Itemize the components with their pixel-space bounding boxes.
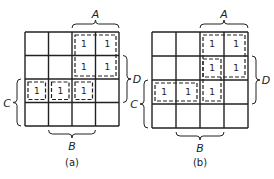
- cell-value: 1: [209, 39, 215, 49]
- brace: [123, 56, 131, 103]
- cell-value: 1: [161, 87, 167, 97]
- cell-value: 1: [81, 39, 87, 49]
- cell-value: 1: [209, 63, 215, 73]
- cell-value: 1: [81, 62, 87, 72]
- cell-value: 1: [104, 39, 110, 49]
- map-caption: (b): [193, 157, 207, 168]
- brace: [49, 130, 96, 138]
- karnaugh-map-a: 1111111ADCB(a): [3, 8, 141, 168]
- cell-value: 1: [104, 62, 110, 72]
- brace: [13, 79, 21, 126]
- cell-value: 1: [233, 63, 239, 73]
- cell-value: 1: [185, 87, 191, 97]
- brace: [140, 80, 148, 128]
- label-b: B: [196, 142, 204, 155]
- label-a: A: [91, 8, 100, 21]
- map-caption: (a): [65, 157, 79, 168]
- karnaugh-map-b: 1111111ADCB(b): [130, 8, 270, 168]
- label-d: D: [262, 74, 270, 87]
- label-c: C: [130, 98, 138, 111]
- brace: [200, 20, 248, 28]
- label-d: D: [133, 73, 141, 86]
- cell-value: 1: [34, 86, 40, 96]
- brace: [252, 56, 260, 104]
- brace: [72, 20, 119, 28]
- karnaugh-maps-figure: 1111111ADCB(a)1111111ADCB(b): [0, 0, 274, 179]
- cell-value: 1: [209, 87, 215, 97]
- cell-value: 1: [57, 86, 63, 96]
- label-b: B: [68, 140, 76, 153]
- cell-value: 1: [81, 86, 87, 96]
- cell-value: 1: [233, 39, 239, 49]
- label-a: A: [219, 8, 228, 21]
- brace: [176, 132, 224, 140]
- label-c: C: [3, 97, 11, 110]
